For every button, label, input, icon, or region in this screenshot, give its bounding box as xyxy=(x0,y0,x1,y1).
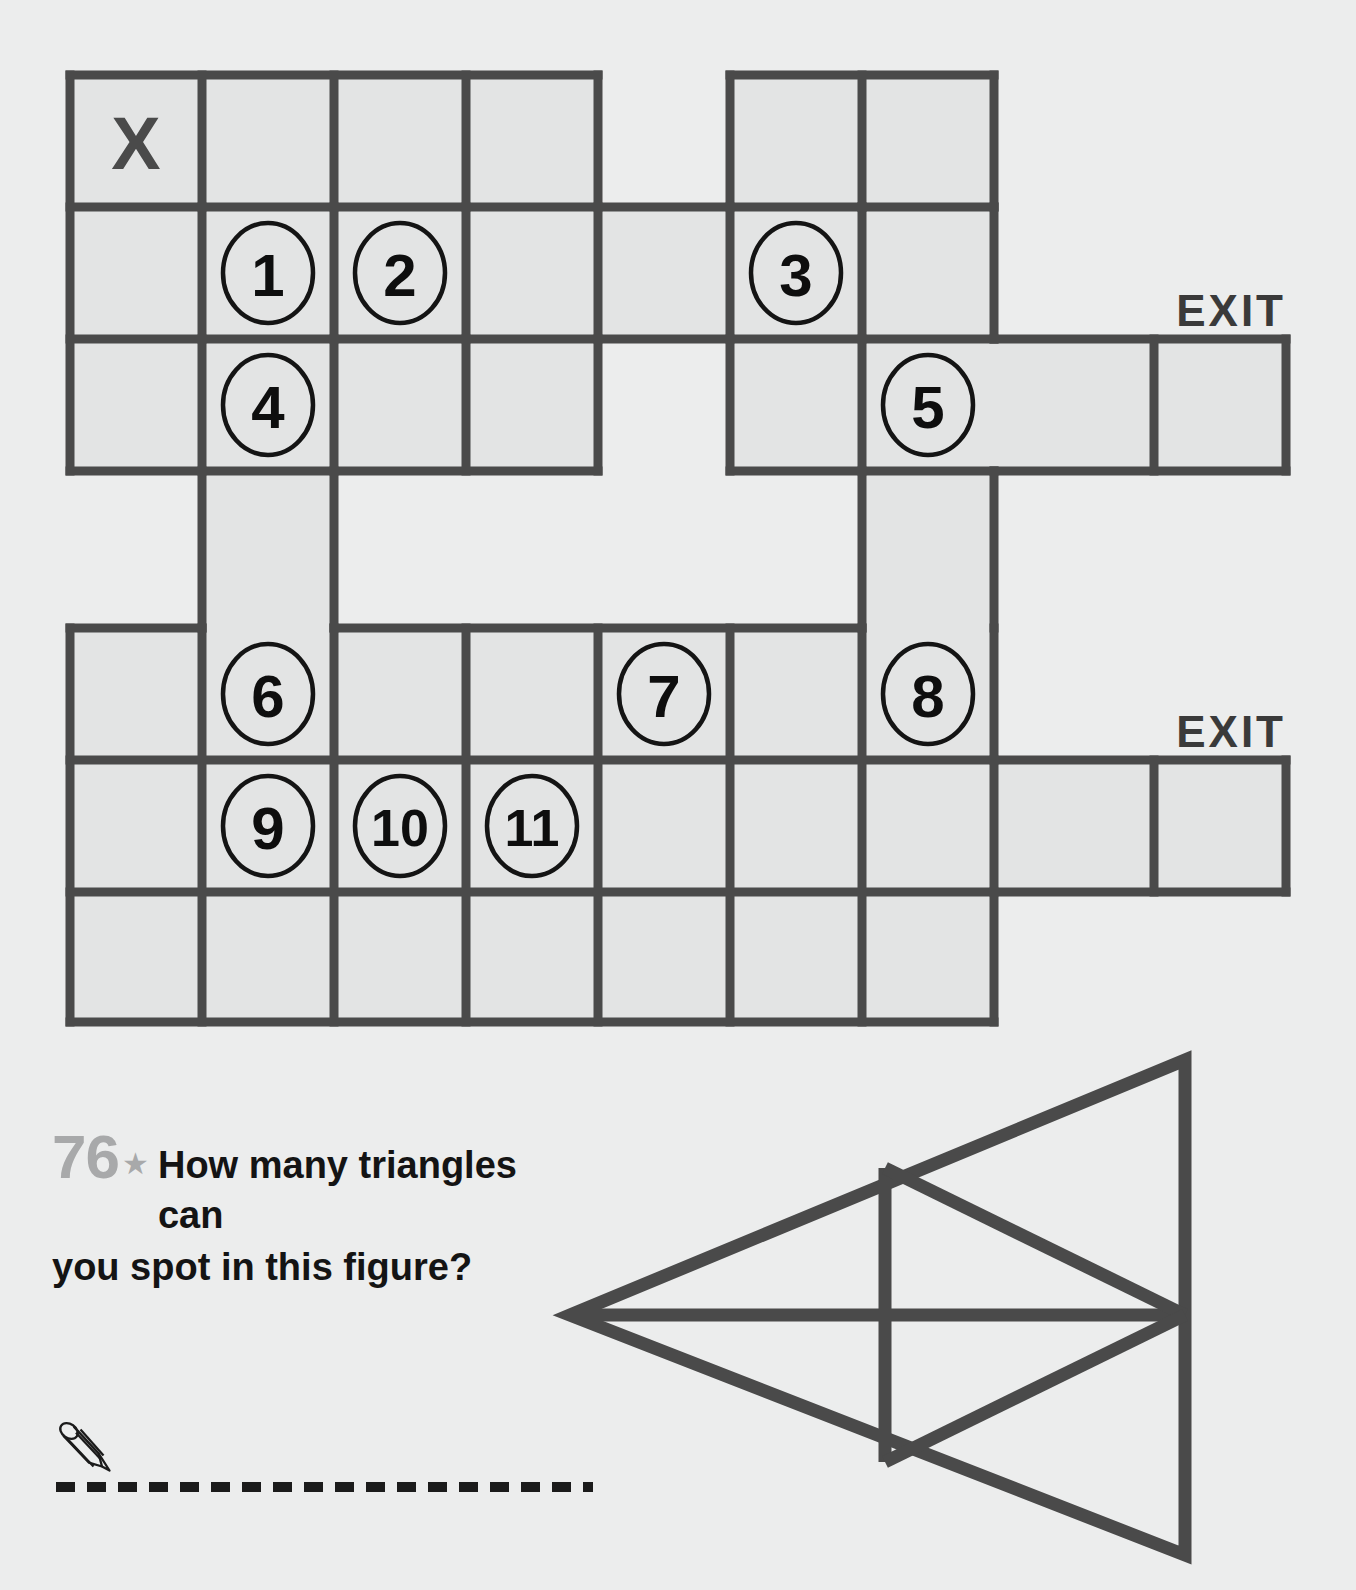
node-label: 4 xyxy=(251,374,285,441)
node-label: 2 xyxy=(383,242,416,309)
node-label: 6 xyxy=(251,663,284,730)
triangle-figure-svg xyxy=(540,1030,1220,1590)
lower-inner-diagonal xyxy=(885,1315,1185,1462)
puzzle-page: X EXIT EXIT 1 2 3 4 xyxy=(0,0,1356,1590)
node-label: 3 xyxy=(779,242,812,309)
puzzle-prompt: 76 ★ How many triangles can you spot in … xyxy=(52,1128,582,1292)
maze-cell-fills xyxy=(70,75,1286,1022)
node-label: 11 xyxy=(505,799,560,857)
maze-svg: X EXIT EXIT 1 2 3 4 xyxy=(0,0,1356,1050)
node-label: 10 xyxy=(371,799,429,857)
start-marker-label: X xyxy=(111,102,160,185)
node-label: 1 xyxy=(251,242,284,309)
puzzle-prompt-first-line: 76 ★ How many triangles can xyxy=(52,1128,582,1240)
maze-start-cell: X xyxy=(111,102,160,185)
puzzle-question-line-1: How many triangles can xyxy=(158,1140,582,1240)
puzzle-number: 76 xyxy=(52,1128,119,1187)
outer-triangle xyxy=(570,1060,1185,1555)
exit-label-upper: EXIT xyxy=(1176,286,1286,335)
answer-area xyxy=(56,1418,616,1492)
answer-dashed-line[interactable] xyxy=(56,1482,593,1492)
puzzle-question-line-2: you spot in this figure? xyxy=(52,1242,582,1292)
node-label: 7 xyxy=(647,663,680,730)
triangle-count-figure xyxy=(540,1030,1220,1590)
node-label: 5 xyxy=(911,374,944,441)
exit-label-lower: EXIT xyxy=(1176,707,1286,756)
triangle-figure-strokes xyxy=(570,1060,1185,1555)
node-label: 9 xyxy=(251,795,284,862)
difficulty-star-icon: ★ xyxy=(122,1146,149,1181)
node-label: 8 xyxy=(911,663,944,730)
upper-inner-diagonal xyxy=(885,1168,1185,1315)
maze-grid: X EXIT EXIT 1 2 3 4 xyxy=(0,0,1356,1050)
pencil-icon xyxy=(56,1418,118,1472)
